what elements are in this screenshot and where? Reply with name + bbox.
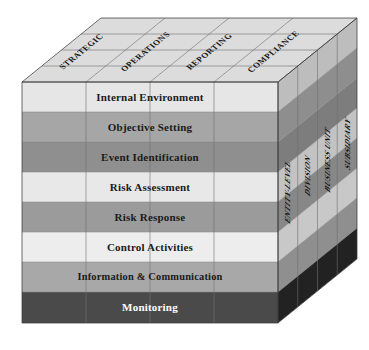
front-label-internal-environment: Internal Environment bbox=[96, 91, 204, 103]
side-label-entity-level: ENTITY-LEVEL bbox=[283, 157, 292, 226]
side-label-division: DIVISION bbox=[303, 152, 312, 198]
front-face: Internal Environment Objective Setting E… bbox=[22, 82, 278, 323]
coso-erm-cube-figure: STRATEGIC OPERATIONS REPORTING COMPLIANC… bbox=[0, 0, 369, 350]
front-label-event-identification: Event Identification bbox=[101, 151, 199, 163]
side-label-subsidiary: SUBSIDIARY bbox=[343, 114, 352, 172]
side-label-business-unit: BUSINESS UNIT bbox=[323, 124, 332, 194]
front-label-risk-assessment: Risk Assessment bbox=[110, 181, 190, 193]
cube-canvas: STRATEGIC OPERATIONS REPORTING COMPLIANC… bbox=[0, 0, 369, 350]
front-label-risk-response: Risk Response bbox=[115, 211, 186, 223]
front-label-information-communication: Information & Communication bbox=[77, 271, 222, 282]
front-label-monitoring: Monitoring bbox=[122, 301, 178, 313]
front-label-control-activities: Control Activities bbox=[107, 241, 194, 253]
front-label-objective-setting: Objective Setting bbox=[108, 121, 193, 133]
